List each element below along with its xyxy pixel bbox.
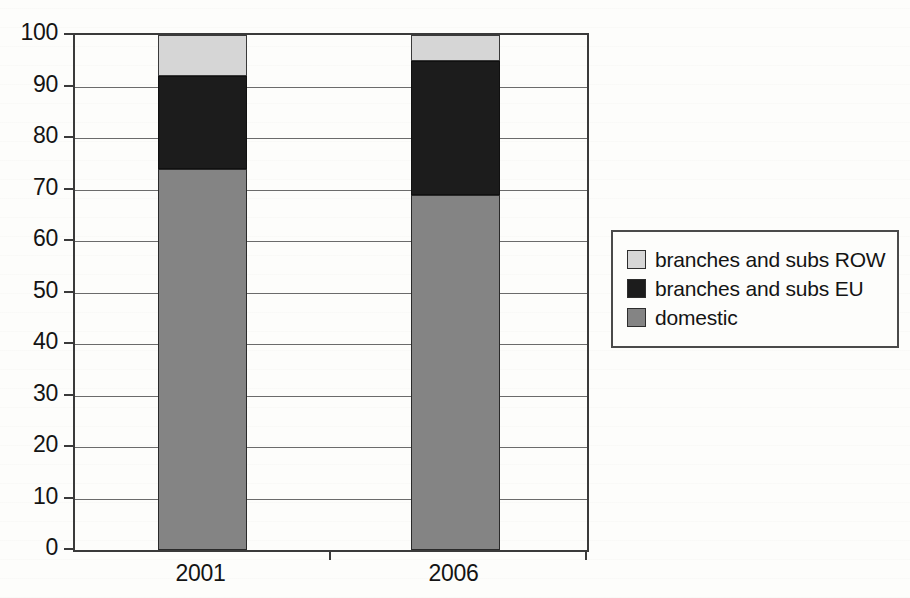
- legend-swatch-eu-icon: [627, 279, 646, 298]
- y-axis-tick-label: 40: [0, 330, 58, 353]
- y-axis-tick-mark: [64, 239, 73, 241]
- gridline: [75, 499, 587, 500]
- legend-item-branches-and-subs-row[interactable]: branches and subs ROW: [627, 245, 883, 274]
- bar-segment-2006-row: [411, 35, 500, 61]
- x-axis-tick-mark: [585, 550, 587, 560]
- bar-2006: [411, 35, 500, 550]
- y-axis-tick-mark: [64, 445, 73, 447]
- gridline: [75, 344, 587, 345]
- gridline: [75, 241, 587, 242]
- y-axis-tick-mark: [64, 342, 73, 344]
- y-axis-tick-mark: [64, 136, 73, 138]
- y-axis-tick-mark: [64, 497, 73, 499]
- y-axis-tick-label: 80: [0, 124, 58, 147]
- x-axis-tick-label: 2001: [141, 560, 261, 586]
- legend-label-row: branches and subs ROW: [655, 248, 885, 271]
- y-axis-tick-mark: [64, 291, 73, 293]
- bar-segment-2001-eu: [158, 76, 247, 169]
- y-axis-tick-mark: [64, 85, 73, 87]
- y-axis-tick-label: 60: [0, 227, 58, 250]
- y-axis-tick-mark: [64, 33, 73, 35]
- legend-swatch-domestic-icon: [627, 308, 646, 327]
- y-axis-tick-mark: [64, 188, 73, 190]
- x-axis-tick-mark: [329, 550, 331, 560]
- legend-swatch-row-icon: [627, 250, 646, 269]
- bar-segment-2006-domestic: [411, 195, 500, 550]
- plot-area: [73, 33, 589, 552]
- y-axis-tick-label: 20: [0, 433, 58, 456]
- legend-item-branches-and-subs-eu[interactable]: branches and subs EU: [627, 274, 883, 303]
- y-axis-tick-label: 10: [0, 485, 58, 508]
- legend-label-eu: branches and subs EU: [655, 277, 863, 300]
- bar-2001: [158, 35, 247, 550]
- y-axis-tick-label: 70: [0, 176, 58, 199]
- y-axis-tick-mark: [64, 548, 73, 550]
- legend-label-domestic: domestic: [655, 306, 737, 329]
- y-axis-tick-label: 30: [0, 382, 58, 405]
- y-axis-tick-label: 0: [0, 536, 58, 559]
- gridline: [75, 447, 587, 448]
- y-axis-tick-mark: [64, 394, 73, 396]
- bar-segment-2006-eu: [411, 61, 500, 195]
- x-axis-tick-label: 2006: [394, 560, 514, 586]
- gridline: [75, 293, 587, 294]
- chart-legend: branches and subs ROW branches and subs …: [611, 230, 899, 348]
- y-axis-tick-label: 90: [0, 73, 58, 96]
- bar-segment-2001-domestic: [158, 169, 247, 550]
- gridline: [75, 190, 587, 191]
- stacked-bar-chart: 1009080706050403020100 20012006 branches…: [0, 0, 910, 598]
- legend-item-domestic[interactable]: domestic: [627, 303, 883, 332]
- y-axis-tick-label: 50: [0, 279, 58, 302]
- bar-segment-2001-row: [158, 35, 247, 76]
- y-axis-tick-label: 100: [0, 21, 58, 44]
- gridline: [75, 87, 587, 88]
- gridline: [75, 396, 587, 397]
- gridline: [75, 138, 587, 139]
